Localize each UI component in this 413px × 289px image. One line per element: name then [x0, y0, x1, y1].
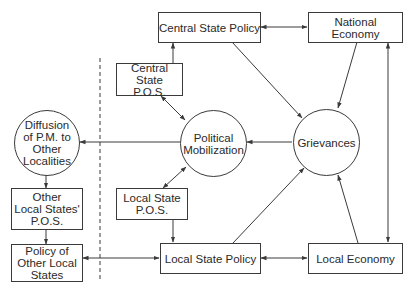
edge-cspos-pm — [161, 96, 185, 120]
node-central-state-pos: Central State P.O.S. — [116, 63, 183, 96]
label-national-economy: National Economy — [309, 16, 402, 40]
edge-csp-gr — [232, 42, 302, 118]
label-diffusion: Diffusion of P.M. to Other Localities — [23, 119, 71, 167]
node-local-economy: Local Economy — [308, 243, 403, 274]
node-national-economy: National Economy — [308, 12, 403, 43]
label-central-state-policy: Central State Policy — [159, 22, 260, 34]
node-policy-other-local-states: Policy of Other Local States — [11, 244, 83, 282]
edge-pm-lspos — [163, 167, 186, 188]
label-local-state-pos: Local State P.O.S. — [123, 192, 181, 216]
edge-le-gr — [338, 175, 358, 243]
node-central-state-policy: Central State Policy — [158, 12, 261, 43]
node-local-state-pos: Local State P.O.S. — [116, 188, 188, 220]
edge-lsp-gr — [233, 168, 304, 243]
label-other-local-states-pos: Other Local States' P.O.S. — [14, 191, 80, 227]
label-political-mobilization: Political Mobilization — [183, 132, 244, 156]
node-other-local-states-pos: Other Local States' P.O.S. — [11, 188, 83, 230]
label-policy-other-local-states: Policy of Other Local States — [17, 245, 76, 281]
label-central-state-pos: Central State P.O.S. — [117, 62, 182, 98]
node-local-state-policy: Local State Policy — [160, 243, 261, 274]
node-political-mobilization: Political Mobilization — [180, 110, 247, 177]
label-local-state-policy: Local State Policy — [165, 253, 256, 265]
label-local-economy: Local Economy — [316, 253, 395, 265]
edge-ne-gr — [338, 42, 357, 108]
label-grievances: Grievances — [297, 137, 355, 149]
node-grievances: Grievances — [293, 109, 360, 176]
node-diffusion: Diffusion of P.M. to Other Localities — [14, 110, 80, 176]
